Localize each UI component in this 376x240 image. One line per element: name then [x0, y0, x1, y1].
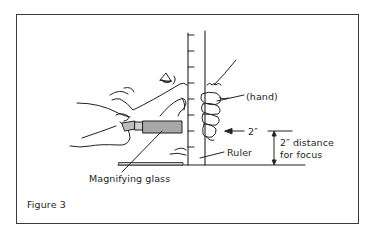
label-two-inch: 2″ — [248, 127, 258, 137]
label-distance-line1: 2″ distance — [280, 138, 334, 148]
hands-holding-magnifying-glass — [70, 83, 187, 155]
label-distance-line2: for focus — [280, 150, 322, 160]
label-magnifying-glass: Magnifying glass — [89, 174, 170, 184]
leader-ruler — [200, 152, 224, 158]
ruler — [188, 31, 205, 165]
eye-icon — [160, 73, 175, 84]
label-ruler: Ruler — [227, 148, 252, 158]
leader-magnifying-glass — [122, 131, 162, 172]
figure-caption: Figure 3 — [27, 200, 66, 210]
magnifying-glass — [122, 121, 182, 133]
arrow-left-icon — [225, 129, 244, 134]
label-hand: (hand) — [246, 92, 278, 102]
